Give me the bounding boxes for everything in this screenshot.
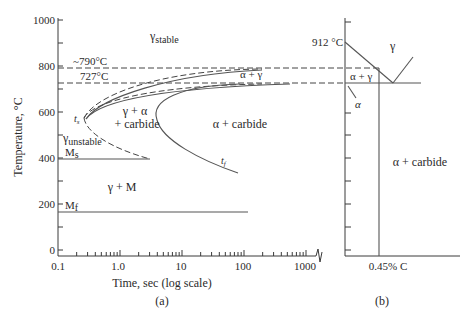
ts-lower-solid-curve xyxy=(86,84,290,119)
acm-line xyxy=(393,57,413,83)
region-gamma-stable: γstable xyxy=(149,29,179,45)
region-gamma-alpha: γ + α xyxy=(122,104,148,118)
region-alpha-b: α xyxy=(355,98,361,110)
ms-label: Ms xyxy=(65,146,79,160)
y-tick-label: 600 xyxy=(39,106,56,118)
region-alpha-gamma: α + γ xyxy=(240,68,262,80)
label-727c: 727°C xyxy=(80,70,108,82)
x-tick-label: 0.1 xyxy=(51,260,65,272)
panel-a: 1000 800 600 400 200 0 Temperature, °C 0… xyxy=(11,14,380,308)
y-tick-label: 200 xyxy=(39,198,56,210)
label-790c: ~790°C xyxy=(73,55,107,67)
region-gamma-m: γ + M xyxy=(107,180,137,194)
panel-b: 912 °C γ α + γ α α + carbide 0.45% C (b) xyxy=(312,18,460,308)
ttt-diagram-figure: 1000 800 600 400 200 0 Temperature, °C 0… xyxy=(0,0,473,317)
x-ticks xyxy=(77,250,306,256)
alpha-pointer xyxy=(348,86,356,98)
region-alpha-gamma-b: α + γ xyxy=(350,70,372,82)
region-gamma-b: γ xyxy=(389,39,396,53)
axis-break-icon xyxy=(316,249,322,262)
panel-a-caption: (a) xyxy=(155,294,168,308)
y-tick-label: 800 xyxy=(39,60,56,72)
region-plus-carbide: + carbide xyxy=(114,117,159,131)
x-tick-label: 10 xyxy=(176,260,188,272)
panel-b-caption: (b) xyxy=(375,294,389,308)
label-912c: 912 °C xyxy=(312,36,343,48)
y-tick-label: 0 xyxy=(50,244,56,256)
x-axis-label: Time, sec (log scale) xyxy=(112,276,212,290)
region-alpha-carbide: α + carbide xyxy=(213,117,267,131)
x-tick-label: 1000 xyxy=(294,260,317,272)
y-ticks-b xyxy=(345,22,351,250)
region-gamma-unstable: γunstable xyxy=(62,131,102,147)
y-axis-label: Temperature, °C xyxy=(11,97,25,176)
region-alpha-carbide-b: α + carbide xyxy=(393,155,447,169)
tf-label: tf xyxy=(221,155,227,168)
mf-label: Mf xyxy=(65,199,79,213)
x-tick-label: 1.0 xyxy=(111,260,125,272)
y-tick-label: 400 xyxy=(39,152,56,164)
ts-label: ts xyxy=(74,113,80,126)
composition-label: 0.45% C xyxy=(369,260,408,272)
x-tick-label: 100 xyxy=(235,260,252,272)
ts-upper-dashed-curve xyxy=(84,69,262,118)
y-tick-label: 1000 xyxy=(33,14,56,26)
